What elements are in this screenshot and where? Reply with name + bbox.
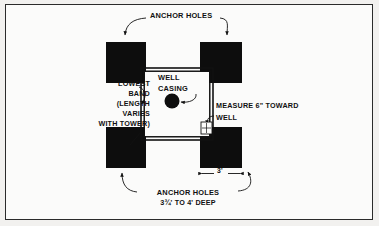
label-anchor-holes-top: ANCHOR HOLES [150, 11, 212, 21]
anchor-bottom-right-leader [238, 172, 251, 191]
anchor-top-left-leader [125, 18, 146, 35]
label-dimension-3ft: 3' [217, 166, 223, 176]
well-casing-circle [165, 94, 180, 109]
label-lowest-band: LOWEST BAND (LENGTH VARIES WITH TOWER) [96, 79, 150, 129]
label-hole-depth: 3¾' TO 4' DEEP [132, 198, 244, 208]
label-measure-toward-well: MEASURE 6" TOWARD WELL [216, 100, 299, 124]
label-well-casing: WELL CASING [158, 72, 188, 94]
anchor-bottom-left-leader [122, 173, 137, 192]
label-anchor-holes-bottom: ANCHOR HOLES [140, 187, 236, 198]
diagram-page: ANCHOR HOLES LOWEST BAND (LENGTH VARIES … [0, 0, 379, 226]
anchor-top-right-leader [220, 18, 227, 35]
anchor-hole-top-left [106, 42, 146, 83]
